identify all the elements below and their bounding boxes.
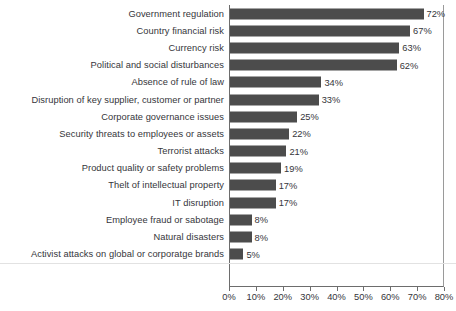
x-axis-tick: [363, 287, 364, 291]
bar-value-label: 62%: [400, 60, 419, 70]
bar: [230, 214, 252, 225]
bar-row: IT disruption17%: [0, 194, 456, 211]
bar: [230, 25, 410, 36]
bar-row: Thelt of intellectual property17%: [0, 177, 456, 194]
bar-row: Natural disasters8%: [0, 228, 456, 245]
bar-row: Terrorist attacks21%: [0, 143, 456, 160]
bar: [230, 163, 281, 174]
x-axis-tick-label: 40%: [327, 292, 346, 302]
bar-and-value: 17%: [230, 197, 297, 208]
x-axis-tick: [337, 287, 338, 291]
category-label: Employee fraud or sabotage: [106, 215, 224, 225]
bar-value-label: 72%: [427, 9, 446, 19]
bar-value-label: 5%: [246, 249, 259, 259]
bar-row: Employee fraud or sabotage8%: [0, 211, 456, 228]
x-axis-tick: [283, 287, 284, 291]
x-axis-tick-label: 0%: [222, 292, 235, 302]
x-axis-tick-label: 50%: [354, 292, 373, 302]
bar: [230, 128, 289, 139]
bar-and-value: 33%: [230, 94, 340, 105]
bar: [230, 94, 319, 105]
bar: [230, 249, 243, 260]
x-axis-tick-label: 20%: [273, 292, 292, 302]
x-axis-tick: [310, 287, 311, 291]
horizontal-bar-chart: Government regulation72%Country financia…: [0, 0, 456, 311]
bar: [230, 60, 397, 71]
bar-and-value: 67%: [230, 25, 432, 36]
x-axis: 0%10%20%30%40%50%60%70%80%: [229, 287, 445, 311]
bar: [230, 232, 252, 243]
category-label: Government regulation: [128, 9, 224, 19]
bar-row: Currency risk63%: [0, 39, 456, 56]
x-axis-tick-label: 80%: [435, 292, 454, 302]
bar-and-value: 62%: [230, 60, 418, 71]
bar-value-label: 25%: [300, 112, 319, 122]
bar-and-value: 19%: [230, 163, 303, 174]
bar-and-value: 34%: [230, 77, 343, 88]
bar-value-label: 8%: [255, 232, 268, 242]
category-label: Product quality or safety problems: [82, 163, 224, 173]
category-label: IT disruption: [172, 198, 224, 208]
bar-and-value: 8%: [230, 232, 268, 243]
bar-and-value: 72%: [230, 8, 445, 19]
x-axis-tick-label: 10%: [247, 292, 266, 302]
category-label: Political and social disturbances: [91, 60, 224, 70]
bar: [230, 180, 276, 191]
bar-value-label: 22%: [292, 129, 311, 139]
bar-value-label: 8%: [255, 215, 268, 225]
bar: [230, 197, 276, 208]
bar-value-label: 17%: [279, 180, 298, 190]
bar-row: Activist attacks on global or corporatge…: [0, 246, 456, 263]
bar-row: Absence of rule of law34%: [0, 74, 456, 91]
x-axis-tick-label: 60%: [381, 292, 400, 302]
bar-value-label: 21%: [289, 146, 308, 156]
bar-value-label: 33%: [322, 95, 341, 105]
category-label: Corporate governance issues: [101, 112, 224, 122]
bar: [230, 146, 286, 157]
bar-row: Government regulation72%: [0, 5, 456, 22]
category-label: Terrorist attacks: [158, 146, 224, 156]
bar-value-label: 63%: [402, 43, 421, 53]
section-divider: [0, 263, 456, 264]
x-axis-tick-label: 70%: [408, 292, 427, 302]
bar-and-value: 5%: [230, 249, 260, 260]
bar-row: Corporate governance issues25%: [0, 108, 456, 125]
category-label: Disruption of key supplier, customer or …: [31, 95, 224, 105]
bar-row: Disruption of key supplier, customer or …: [0, 91, 456, 108]
bar-row: Political and social disturbances62%: [0, 57, 456, 74]
x-axis-tick: [390, 287, 391, 291]
bar-and-value: 17%: [230, 180, 297, 191]
x-axis-tick: [229, 287, 230, 291]
bar-and-value: 25%: [230, 111, 319, 122]
bar-value-label: 67%: [413, 26, 432, 36]
bar: [230, 8, 424, 19]
bar-value-label: 19%: [284, 163, 303, 173]
bar: [230, 42, 399, 53]
bar: [230, 77, 321, 88]
bar-rows: Government regulation72%Country financia…: [0, 5, 456, 263]
x-axis-tick: [444, 287, 445, 291]
x-axis-tick: [417, 287, 418, 291]
category-label: Country financial risk: [137, 26, 224, 36]
category-label: Absence of rule of law: [131, 77, 224, 87]
x-axis-tick: [256, 287, 257, 291]
bar-and-value: 63%: [230, 42, 421, 53]
bar-row: Security threats to employees or assets2…: [0, 125, 456, 142]
bar-row: Product quality or safety problems19%: [0, 160, 456, 177]
bar-and-value: 8%: [230, 214, 268, 225]
bar-value-label: 34%: [324, 77, 343, 87]
category-label: Security threats to employees or assets: [59, 129, 224, 139]
x-axis-tick-label: 30%: [300, 292, 319, 302]
bar-row: Country financial risk67%: [0, 22, 456, 39]
category-label: Natural disasters: [153, 232, 224, 242]
bar-and-value: 21%: [230, 146, 308, 157]
category-label: Thelt of intellectual property: [108, 180, 224, 190]
category-label: Activist attacks on global or corporatge…: [31, 249, 224, 259]
bar: [230, 111, 297, 122]
bar-and-value: 22%: [230, 128, 311, 139]
bar-value-label: 17%: [279, 198, 298, 208]
category-label: Currency risk: [169, 43, 224, 53]
